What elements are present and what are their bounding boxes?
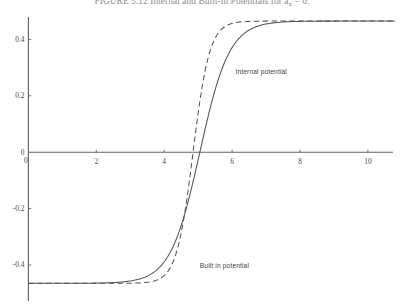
- x-tick-label-4: 4: [151, 157, 177, 166]
- x-tick-label-2: 2: [83, 157, 109, 166]
- y-tick-label-0.4: 0.4: [15, 35, 24, 44]
- x-tick-label-8: 8: [287, 157, 313, 166]
- chart-plot-area: [0, 0, 404, 306]
- y-tick-label-0.2: 0.2: [15, 91, 24, 100]
- x-tick-label-10: 10: [355, 157, 381, 166]
- figure-container: FIGURE 5.12 Internal and Built-in Potent…: [0, 0, 404, 306]
- annotation-built-in-potential: Built in potential: [200, 262, 249, 269]
- x-tick-label-6: 6: [219, 157, 245, 166]
- annotation-internal-potential: Internal potential: [236, 68, 287, 75]
- y-tick-label--0.2: -0.2: [13, 204, 25, 213]
- x-tick-label-0: 0: [13, 156, 39, 165]
- y-tick-label--0.4: -0.4: [13, 260, 25, 269]
